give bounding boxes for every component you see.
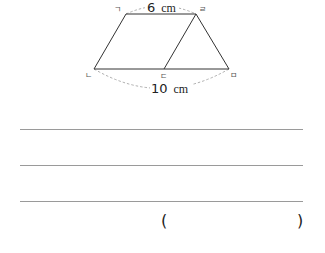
vertex-label-n: ㄴ bbox=[85, 71, 92, 80]
vertex-label-d: ㄷ bbox=[160, 72, 167, 81]
bottom-measure-label: 10 cm bbox=[151, 79, 189, 96]
answer-close-paren: ) bbox=[297, 211, 303, 231]
top-measure-value: 6 bbox=[147, 0, 155, 15]
vertex-label-r: ㄹ bbox=[199, 5, 206, 14]
trapezoid-outline bbox=[94, 14, 229, 69]
trapezoid-figure: ㄱ ㄹ ㄴ ㄷ ㅁ 6 cm 10 cm bbox=[0, 0, 325, 110]
answer-blank[interactable] bbox=[175, 211, 293, 231]
vertex-label-m: ㅁ bbox=[230, 71, 237, 80]
top-measure-unit: cm bbox=[161, 1, 176, 15]
vertex-label-g: ㄱ bbox=[114, 5, 121, 14]
answer-open-paren: ( bbox=[161, 211, 167, 231]
answer-line-2[interactable] bbox=[20, 165, 303, 166]
answer-line-1[interactable] bbox=[20, 129, 303, 130]
top-measure-label: 6 cm bbox=[147, 0, 177, 15]
bottom-measure-value: 10 bbox=[151, 81, 168, 96]
answer-line-3[interactable] bbox=[20, 201, 303, 202]
segment-r-d bbox=[164, 14, 196, 69]
bottom-measure-unit: cm bbox=[174, 82, 189, 96]
